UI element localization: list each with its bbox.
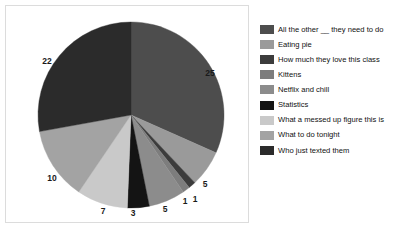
legend-item-label: How much they love this class [278, 56, 380, 64]
pie-slice-value-label: 3 [131, 208, 136, 218]
legend-color-swatch-icon [260, 40, 274, 49]
legend-item[interactable]: Eating pie [260, 37, 394, 52]
pie-svg [6, 6, 250, 224]
legend-item[interactable]: Who just texted them [260, 143, 394, 158]
legend-item[interactable]: All the other __ they need to do [260, 22, 394, 37]
pie-slice-value-label: 10 [47, 173, 56, 183]
chart-legend: All the other __ they need to doEating p… [260, 22, 394, 162]
legend-item-label: Who just texted them [278, 147, 349, 155]
pie-slice-value-label: 7 [101, 206, 106, 216]
legend-color-swatch-icon [260, 131, 274, 140]
pie-slice-value-label: 1 [193, 194, 198, 204]
chart-plot-area: 255115371022 [5, 5, 249, 223]
legend-color-swatch-icon [260, 101, 274, 110]
legend-item[interactable]: Kittens [260, 67, 394, 82]
legend-color-swatch-icon [260, 55, 274, 64]
legend-item-label: Eating pie [278, 41, 312, 49]
pie-slice[interactable] [38, 22, 131, 132]
pie-slice-value-label: 5 [163, 204, 168, 214]
legend-color-swatch-icon [260, 116, 274, 125]
pie-slice-value-label: 25 [205, 68, 214, 78]
pie-chart-figure: 255115371022 All the other __ they need … [0, 0, 396, 235]
legend-item-label: All the other __ they need to do [278, 26, 384, 34]
legend-color-swatch-icon [260, 70, 274, 79]
legend-item-label: Statistics [278, 101, 308, 109]
legend-item-label: Netflix and chill [278, 86, 329, 94]
legend-item[interactable]: Statistics [260, 97, 394, 112]
legend-item-label: Kittens [278, 71, 301, 79]
pie-slice-value-label: 1 [183, 196, 188, 206]
pie-container: 255115371022 [6, 6, 250, 224]
legend-item[interactable]: How much they love this class [260, 52, 394, 67]
pie-slice-value-label: 22 [42, 56, 51, 66]
pie-slice-value-label: 5 [203, 179, 208, 189]
legend-item[interactable]: Netflix and chill [260, 82, 394, 97]
legend-color-swatch-icon [260, 146, 274, 155]
legend-color-swatch-icon [260, 25, 274, 34]
legend-color-swatch-icon [260, 85, 274, 94]
legend-item-label: What a messed up figure this is [278, 116, 384, 124]
legend-item[interactable]: What a messed up figure this is [260, 113, 394, 128]
legend-item-label: What to do tonight [278, 131, 340, 139]
legend-item[interactable]: What to do tonight [260, 128, 394, 143]
